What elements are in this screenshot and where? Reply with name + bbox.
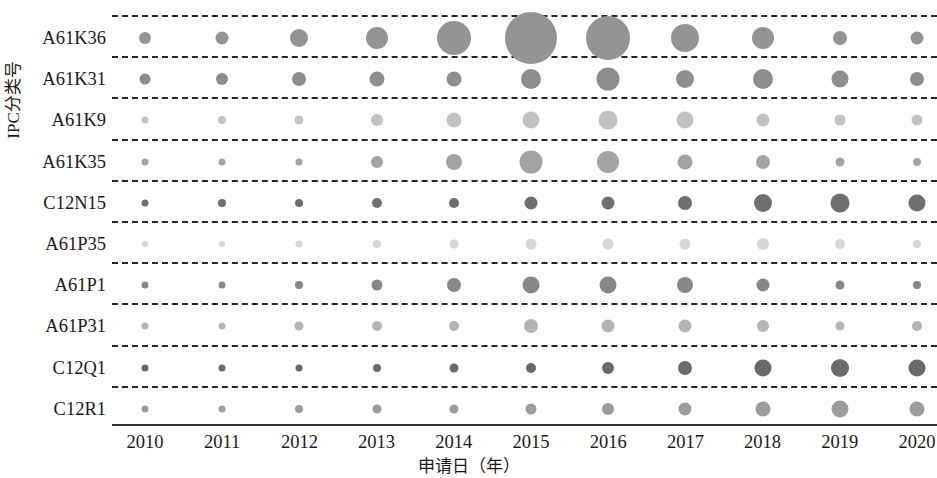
bubble-a61p35-2013 xyxy=(373,240,381,248)
y-tick-label-a61p35: A61P35 xyxy=(45,235,106,254)
grid-line xyxy=(112,386,937,388)
bubble-c12q1-2015 xyxy=(526,363,536,373)
bubble-a61p35-2010 xyxy=(142,241,148,247)
bubble-a61p1-2015 xyxy=(523,277,540,294)
bubble-c12q1-2020 xyxy=(909,359,926,376)
bubble-c12r1-2016 xyxy=(602,403,614,415)
bubble-a61k31-2017 xyxy=(676,70,694,88)
y-axis-tick-labels: A61K36A61K31A61K9A61K35C12N15A61P35A61P1… xyxy=(0,0,112,425)
y-tick-label-a61p31: A61P31 xyxy=(45,317,106,336)
y-tick-label-c12n15: C12N15 xyxy=(43,194,106,213)
bubble-a61p1-2011 xyxy=(219,282,226,289)
bubble-a61p35-2020 xyxy=(913,240,921,248)
bubble-a61p1-2012 xyxy=(295,281,303,289)
bubble-c12q1-2010 xyxy=(142,364,149,371)
y-tick-label-a61k36: A61K36 xyxy=(42,29,106,48)
bubble-a61k9-2014 xyxy=(446,113,461,128)
bubble-a61k9-2013 xyxy=(371,114,383,126)
bubble-c12r1-2011 xyxy=(219,405,226,412)
bubble-a61k35-2012 xyxy=(296,158,303,165)
y-tick-label-a61p1: A61P1 xyxy=(55,276,106,295)
bubble-a61k36-2010 xyxy=(139,32,151,44)
bubble-a61p31-2014 xyxy=(449,321,459,331)
bubble-a61p35-2012 xyxy=(296,241,303,248)
bubble-a61k35-2020 xyxy=(913,158,921,166)
bubble-a61k36-2020 xyxy=(911,32,924,45)
bubble-a61p31-2017 xyxy=(679,320,692,333)
grid-line xyxy=(112,221,937,223)
bubble-a61k35-2013 xyxy=(371,156,383,168)
bubble-c12n15-2015 xyxy=(525,196,538,209)
grid-line xyxy=(112,97,937,99)
bubble-a61k35-2017 xyxy=(678,154,693,169)
bubble-a61p35-2019 xyxy=(835,239,845,249)
bubble-c12n15-2019 xyxy=(830,193,849,212)
bubble-c12q1-2013 xyxy=(373,364,381,372)
bubble-a61k36-2019 xyxy=(833,31,847,45)
bubble-a61k9-2016 xyxy=(599,111,618,130)
bubble-a61k31-2018 xyxy=(753,69,773,89)
bubble-a61k36-2012 xyxy=(290,29,308,47)
bubble-c12n15-2018 xyxy=(754,194,772,212)
bubble-c12q1-2018 xyxy=(754,359,771,376)
bubble-a61p35-2011 xyxy=(219,241,225,247)
bubble-a61k31-2015 xyxy=(521,69,541,89)
y-tick-label-a61k9: A61K9 xyxy=(52,111,106,130)
bubble-c12n15-2020 xyxy=(909,194,926,211)
bubble-a61k36-2016 xyxy=(586,16,630,60)
bubble-c12r1-2012 xyxy=(295,405,303,413)
bubble-c12r1-2015 xyxy=(526,403,537,414)
bubble-a61p31-2016 xyxy=(602,320,615,333)
y-tick-label-c12q1: C12Q1 xyxy=(53,358,106,377)
bubble-c12q1-2012 xyxy=(296,364,303,371)
bubble-a61p1-2013 xyxy=(371,280,382,291)
bubble-a61k9-2015 xyxy=(523,112,540,129)
bubble-a61k9-2018 xyxy=(756,114,769,127)
bubble-a61k9-2011 xyxy=(218,116,226,124)
bubble-a61p31-2010 xyxy=(142,323,149,330)
bubble-a61k31-2014 xyxy=(446,72,461,87)
bubble-a61p31-2013 xyxy=(372,321,382,331)
bubble-a61k36-2017 xyxy=(671,24,699,52)
bubble-chart: IPC分类号 A61K36A61K31A61K9A61K35C12N15A61P… xyxy=(0,0,937,478)
bubble-a61k9-2017 xyxy=(677,112,694,129)
bubble-c12n15-2012 xyxy=(295,199,303,207)
bubble-a61k36-2013 xyxy=(366,27,388,49)
bubble-a61k9-2012 xyxy=(295,116,304,125)
bubble-a61k35-2019 xyxy=(835,157,844,166)
bubble-c12n15-2013 xyxy=(372,198,382,208)
bubble-c12q1-2016 xyxy=(602,362,614,374)
bubble-a61p35-2016 xyxy=(603,239,614,250)
bubble-a61p1-2010 xyxy=(142,282,149,289)
bubble-c12r1-2014 xyxy=(449,404,458,413)
bubble-a61p35-2017 xyxy=(680,239,691,250)
bubble-a61k31-2013 xyxy=(369,72,384,87)
bubble-c12n15-2016 xyxy=(602,196,615,209)
bubble-c12r1-2017 xyxy=(679,402,692,415)
bubble-a61p1-2017 xyxy=(677,277,693,293)
bubble-a61p31-2015 xyxy=(524,319,538,333)
bubble-a61p35-2014 xyxy=(449,240,458,249)
bubble-a61k9-2010 xyxy=(142,117,149,124)
bubble-a61k35-2018 xyxy=(756,155,770,169)
bubble-c12n15-2010 xyxy=(142,199,149,206)
bubble-a61p31-2020 xyxy=(912,321,922,331)
bubble-a61k35-2016 xyxy=(597,151,619,173)
bubble-a61p35-2018 xyxy=(757,238,769,250)
y-tick-label-a61k35: A61K35 xyxy=(42,152,106,171)
bubble-c12r1-2018 xyxy=(755,401,770,416)
bubble-a61p31-2019 xyxy=(835,322,844,331)
bubble-a61k36-2014 xyxy=(437,21,471,55)
bubble-c12n15-2014 xyxy=(449,198,459,208)
bubble-a61p31-2012 xyxy=(295,322,304,331)
bubble-c12r1-2013 xyxy=(372,404,381,413)
bubble-a61p1-2014 xyxy=(447,278,461,292)
bubble-a61p1-2016 xyxy=(600,277,617,294)
bubble-a61k36-2018 xyxy=(752,27,774,49)
bubble-a61p1-2019 xyxy=(835,281,844,290)
bubble-c12q1-2019 xyxy=(831,359,849,377)
bubble-a61p1-2020 xyxy=(913,281,921,289)
bubble-a61k36-2015 xyxy=(505,12,557,64)
bubble-c12r1-2019 xyxy=(831,400,848,417)
bubble-a61k35-2011 xyxy=(219,158,226,165)
